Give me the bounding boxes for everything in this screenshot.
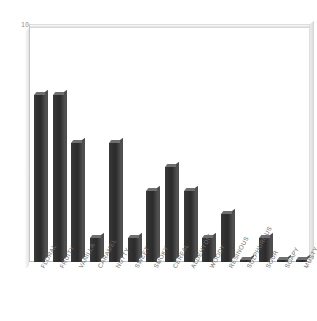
- bar-side-face: [82, 138, 85, 259]
- bar: [34, 95, 45, 262]
- bar-side-face: [45, 90, 48, 259]
- bar-chart: 012345678910 FLORALFRUITYVANILLACARAMELN…: [0, 0, 317, 321]
- frame-right-face: [310, 21, 314, 262]
- bar-side-face: [120, 138, 123, 259]
- bar: [53, 95, 64, 262]
- x-axis-labels: FLORALFRUITYVANILLACARAMELNUTTYSWEETSMOK…: [29, 262, 317, 321]
- bar: [221, 214, 232, 262]
- bar-side-face: [176, 161, 179, 259]
- bar-side-face: [64, 90, 67, 259]
- bar-side-face: [157, 185, 160, 259]
- bar: [71, 143, 82, 262]
